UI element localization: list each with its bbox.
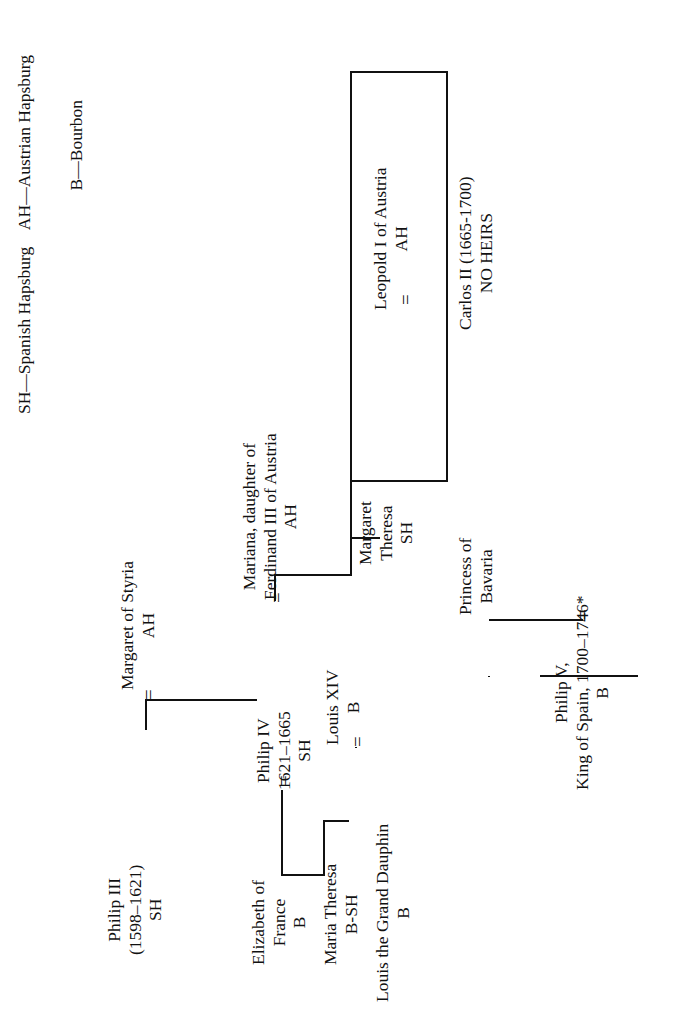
node-philip-v: Philip V, King of Spain, 1700–1746* B [551, 596, 613, 790]
marriage-symbol-philip-iv-elizabeth: = [274, 775, 293, 786]
node-louis-xiv: Louis XIV B [322, 670, 363, 745]
connector-leopold-top-bar [350, 71, 448, 73]
connector-louisxiv-to-dauphin-v [355, 747, 357, 748]
connector-philip4-elizabeth-bar [281, 790, 283, 876]
marriage-symbol-margaret-theresa-leopold: = [396, 294, 415, 305]
family-tree-page: SH—Spanish Hapsburg AH—Austrian Hapsburg… [0, 0, 685, 1019]
connector-carlos-ii-branch [350, 480, 448, 482]
node-leopold-i: Leopold I of Austria AH [370, 168, 411, 310]
connector-philip3-to-philip4 [145, 699, 257, 701]
connector-philip4-children-stem [281, 874, 325, 876]
node-margaret-of-styria: Margaret of Styria AH [117, 561, 158, 690]
node-elizabeth-of-france: Elizabeth of France B [248, 880, 310, 965]
node-philip-iii: Philip III (1598–1621) SH [104, 865, 166, 955]
chart-layer: SH—Spanish Hapsburg AH—Austrian Hapsburg… [0, 0, 685, 1019]
node-princess-of-bavaria: Princess of Bavaria [455, 538, 496, 615]
connector-maria-theresa-stem [323, 820, 349, 822]
legend-line-2-text: B—Bourbon [66, 100, 87, 190]
connector-philipv-stem [488, 676, 490, 677]
node-maria-theresa: Maria Theresa B-SH [320, 864, 361, 965]
connector-carlos-ii-drop [446, 182, 448, 482]
marriage-symbol-maria-theresa-louis-xiv: = [348, 736, 367, 747]
node-margaret-theresa: Margaret Theresa SH [355, 501, 417, 565]
connector-philip3-bracket-v [145, 700, 147, 730]
node-louis-grand-dauphin: Louis the Grand Dauphin B [372, 824, 413, 1002]
marriage-symbol-philip-iv-mariana: = [267, 592, 286, 603]
connector-margaret-theresa-branch [350, 537, 380, 539]
connector-maria-theresa-drop [323, 820, 325, 876]
connector-mariana-spine [274, 574, 352, 576]
connector-philipv-horizontal [540, 675, 638, 677]
connector-leopold-top-left [350, 71, 352, 539]
legend-line-1-text: SH—Spanish Hapsburg AH—Austrian Hapsburg [14, 55, 35, 414]
connector-mariana-bar [274, 575, 276, 601]
connector-leopold-right-drop [446, 71, 448, 183]
connector-dauphin-to-bavaria [489, 619, 583, 621]
node-carlos-ii: Carlos II (1665-1700) NO HEIRS [455, 176, 496, 330]
